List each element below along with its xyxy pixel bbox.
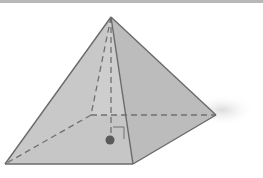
base-center-point bbox=[106, 136, 115, 145]
square-pyramid-diagram bbox=[0, 0, 263, 178]
